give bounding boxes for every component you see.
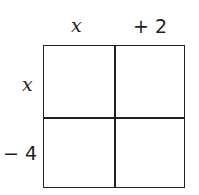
column-label-plus-2: + 2 bbox=[133, 17, 167, 36]
cell-r1-c1 bbox=[44, 46, 114, 117]
row-label-minus-4: − 4 bbox=[3, 144, 37, 163]
column-label-x: x bbox=[71, 16, 82, 35]
cell-r1-c2 bbox=[116, 46, 184, 117]
cell-r2-c2 bbox=[116, 119, 184, 187]
row-label-x: x bbox=[22, 75, 33, 94]
cell-r2-c1 bbox=[44, 119, 114, 187]
